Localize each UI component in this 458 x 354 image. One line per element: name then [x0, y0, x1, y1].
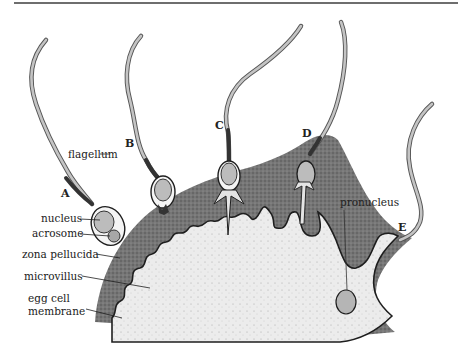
label-nucleus: nucleus	[41, 213, 82, 224]
label-pronucleus: pronucleus	[340, 197, 399, 208]
label-zona-pellucida: zona pellucida	[22, 249, 99, 260]
label-membrane: membrane	[28, 306, 85, 317]
label-flagellum: flagellum	[68, 149, 118, 160]
label-microvillus: microvillus	[24, 271, 83, 282]
stage-label-E: E	[398, 222, 406, 233]
label-acrosome: acrosome	[32, 228, 83, 239]
stage-label-B: B	[125, 138, 134, 149]
stage-label-A: A	[61, 188, 70, 199]
label-egg-cell: egg cell	[28, 293, 70, 304]
stage-label-D: D	[302, 128, 312, 139]
stage-label-C: C	[215, 120, 224, 131]
